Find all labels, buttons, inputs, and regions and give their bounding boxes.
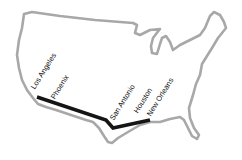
us-outline	[17, 12, 226, 143]
